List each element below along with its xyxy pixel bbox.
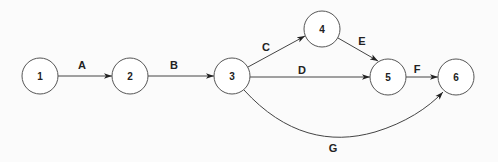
network-diagram: A B C D E F G 1 2 3 4 5 [0, 0, 498, 162]
edge-label-a: A [78, 59, 86, 71]
edge-g: G [244, 90, 443, 154]
edge-label-f: F [414, 63, 421, 75]
edge-e: E [338, 35, 378, 61]
node-label-1: 1 [37, 71, 43, 82]
node-5: 5 [370, 59, 406, 95]
edge-f: F [406, 63, 438, 77]
edge-label-g: G [329, 142, 338, 154]
node-2: 2 [112, 58, 148, 94]
node-6: 6 [438, 59, 474, 95]
edge-b: B [148, 59, 214, 76]
node-label-6: 6 [453, 72, 459, 83]
node-label-3: 3 [229, 71, 235, 82]
edge-a: A [58, 59, 112, 76]
edge-label-c: C [262, 41, 270, 53]
edge-label-d: D [298, 64, 306, 76]
edge-label-b: B [170, 59, 178, 71]
edge-d: D [250, 64, 370, 77]
node-label-2: 2 [127, 71, 133, 82]
node-4: 4 [304, 11, 340, 47]
node-label-4: 4 [319, 24, 325, 35]
node-1: 1 [22, 58, 58, 94]
edge-c: C [248, 36, 305, 67]
node-3: 3 [214, 58, 250, 94]
edge-label-e: E [358, 35, 365, 47]
node-label-5: 5 [385, 72, 391, 83]
